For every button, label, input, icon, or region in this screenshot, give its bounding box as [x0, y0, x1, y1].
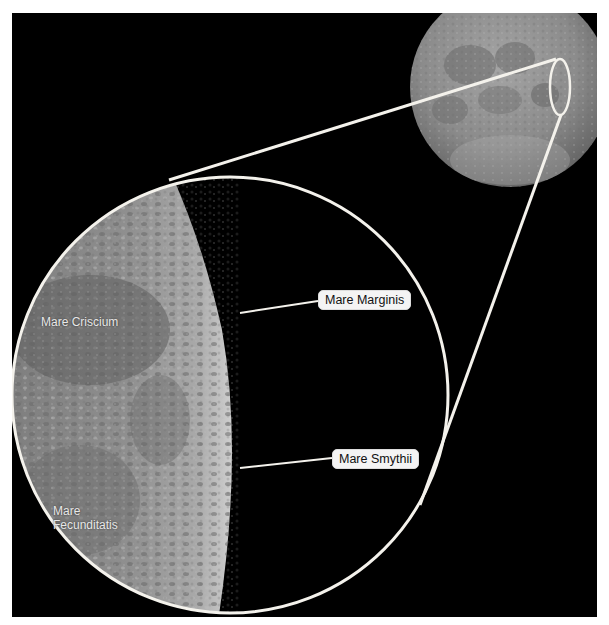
- image-panel: Mare Marginis Mare Smythii Mare Criscium…: [12, 13, 597, 617]
- surface-label-line-2: Fecunditatis: [53, 518, 118, 532]
- magnified-view: [12, 150, 240, 617]
- surface-label-mare-fecunditatis: Mare Fecunditatis: [53, 504, 118, 532]
- pointer-smythii: [240, 458, 332, 468]
- surface-label-line-1: Mare: [53, 504, 118, 518]
- callout-mare-marginis: Mare Marginis: [318, 290, 411, 310]
- surface-label-mare-criscium: Mare Criscium: [41, 315, 118, 329]
- pointer-marginis: [240, 301, 318, 313]
- callout-mare-smythii: Mare Smythii: [332, 449, 419, 469]
